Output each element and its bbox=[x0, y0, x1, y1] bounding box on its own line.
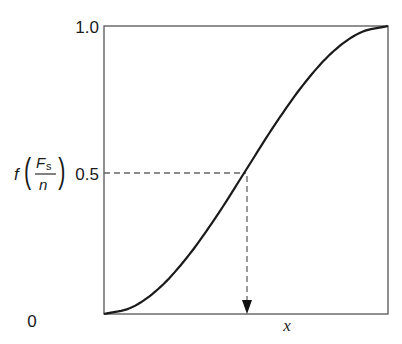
svg-text:(: ( bbox=[24, 150, 31, 190]
svg-text:): ) bbox=[58, 150, 65, 190]
arrow-down-icon bbox=[242, 300, 252, 314]
data-curve bbox=[104, 26, 388, 314]
y-tick-05: 0.5 bbox=[75, 165, 99, 184]
svg-text:n: n bbox=[39, 176, 47, 193]
y-tick-0: 0 bbox=[27, 312, 36, 331]
x-axis-label: x bbox=[282, 316, 291, 335]
svg-text:f: f bbox=[14, 165, 21, 184]
svg-text:s: s bbox=[46, 160, 52, 172]
y-tick-1: 1.0 bbox=[75, 18, 99, 37]
chart: 1.0 0.5 0 f ( F s n ) x bbox=[0, 0, 402, 344]
svg-text:F: F bbox=[36, 154, 46, 171]
y-axis-label: f ( F s n ) bbox=[14, 150, 65, 193]
